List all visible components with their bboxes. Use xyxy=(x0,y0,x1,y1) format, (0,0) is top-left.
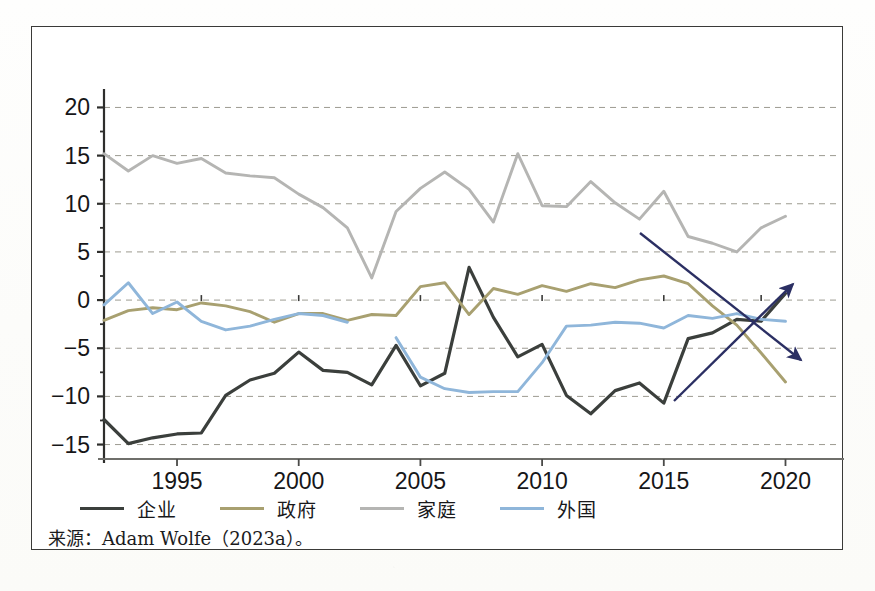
svg-text:2000: 2000 xyxy=(273,468,324,494)
axis-lines xyxy=(98,89,844,463)
svg-text:−15: −15 xyxy=(51,432,90,458)
data-series-group xyxy=(104,154,785,444)
svg-text:0: 0 xyxy=(77,287,90,313)
svg-text:−10: −10 xyxy=(51,383,90,409)
legend-swatch-foreign xyxy=(500,507,544,510)
svg-text:2020: 2020 xyxy=(760,468,811,494)
figure-frame: −15−10−505101520 19952000200520102015202… xyxy=(31,26,843,550)
legend-item-household[interactable]: 家庭 xyxy=(360,495,456,522)
figure-page: −15−10−505101520 19952000200520102015202… xyxy=(0,0,875,591)
svg-text:15: 15 xyxy=(64,143,90,169)
legend-label-corporate: 企业 xyxy=(137,495,176,522)
svg-text:1995: 1995 xyxy=(151,468,202,494)
legend-item-foreign[interactable]: 外国 xyxy=(500,495,596,522)
line-chart: −15−10−505101520 19952000200520102015202… xyxy=(32,27,844,551)
chart-legend: 企业政府家庭外国 xyxy=(80,493,820,523)
legend-swatch-household xyxy=(360,507,404,510)
y-axis-tick-labels: −15−10−505101520 xyxy=(51,94,90,457)
legend-swatch-government xyxy=(220,507,264,510)
svg-text:10: 10 xyxy=(64,191,90,217)
legend-item-government[interactable]: 政府 xyxy=(220,495,316,522)
svg-text:2005: 2005 xyxy=(395,468,446,494)
legend-label-government: 政府 xyxy=(277,495,316,522)
legend-item-corporate[interactable]: 企业 xyxy=(80,495,176,522)
svg-text:−5: −5 xyxy=(64,335,90,361)
tick-marks xyxy=(97,107,785,466)
legend-label-foreign: 外国 xyxy=(557,495,596,522)
legend-label-household: 家庭 xyxy=(417,495,456,522)
x-axis-tick-labels: 199520002005201020152020 xyxy=(151,468,811,494)
svg-text:5: 5 xyxy=(77,239,90,265)
grid-lines xyxy=(104,107,836,444)
svg-text:2015: 2015 xyxy=(638,468,689,494)
legend-swatch-corporate xyxy=(80,507,124,510)
source-note: 来源：Adam Wolfe（2023a）。 xyxy=(48,524,313,550)
svg-text:2010: 2010 xyxy=(517,468,568,494)
svg-text:20: 20 xyxy=(64,94,90,120)
